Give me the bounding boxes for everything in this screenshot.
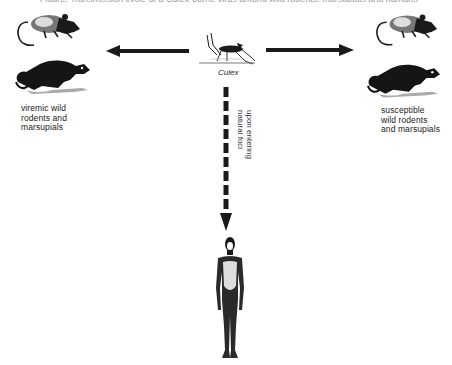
vector-label: Culex [218, 68, 238, 77]
left-solid-arrow [106, 45, 190, 57]
dashed-down-arrow [219, 87, 233, 231]
left-marsupial-icon [12, 56, 94, 96]
label-line: marsupials [21, 123, 67, 133]
human-figure-icon [212, 236, 248, 362]
mosquito-icon [197, 31, 257, 67]
label-line: and marsupials [381, 125, 440, 135]
right-rodent-icon [373, 12, 441, 48]
cutoff-title-text: Figure: Transmission cycle of a Culex-bo… [40, 0, 420, 2]
down-arrow-label: upon entering natural foci [236, 110, 254, 159]
left-group-label: viremic wild rodents and marsupials [21, 104, 67, 133]
label-line: upon entering [245, 110, 254, 159]
right-marsupial-icon [364, 60, 444, 100]
label-line: natural foci [236, 110, 245, 159]
right-group-label: susceptible wild rodents and marsupials [381, 106, 440, 135]
right-solid-arrow [266, 44, 354, 56]
left-rodent-icon [14, 12, 84, 48]
